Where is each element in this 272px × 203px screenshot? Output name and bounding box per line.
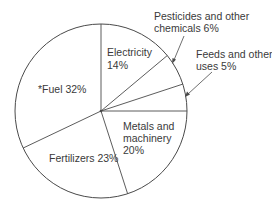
pesticides-arrow xyxy=(172,36,184,64)
fertilizers-label: Fertilizers 23% xyxy=(49,152,118,164)
pie-center xyxy=(100,110,103,113)
feeds-arrow xyxy=(185,72,212,97)
fuel-label: *Fuel 32% xyxy=(38,83,86,95)
pie-chart: Electricity 14% Pesticides and other che… xyxy=(0,0,272,203)
pie-slices xyxy=(15,24,187,198)
pesticides-label: Pesticides and other chemicals 6% xyxy=(154,10,252,34)
feeds-label: Feeds and other uses 5% xyxy=(196,48,272,72)
